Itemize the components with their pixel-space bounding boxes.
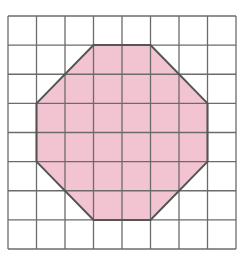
octagon-on-grid-figure [0,0,245,260]
